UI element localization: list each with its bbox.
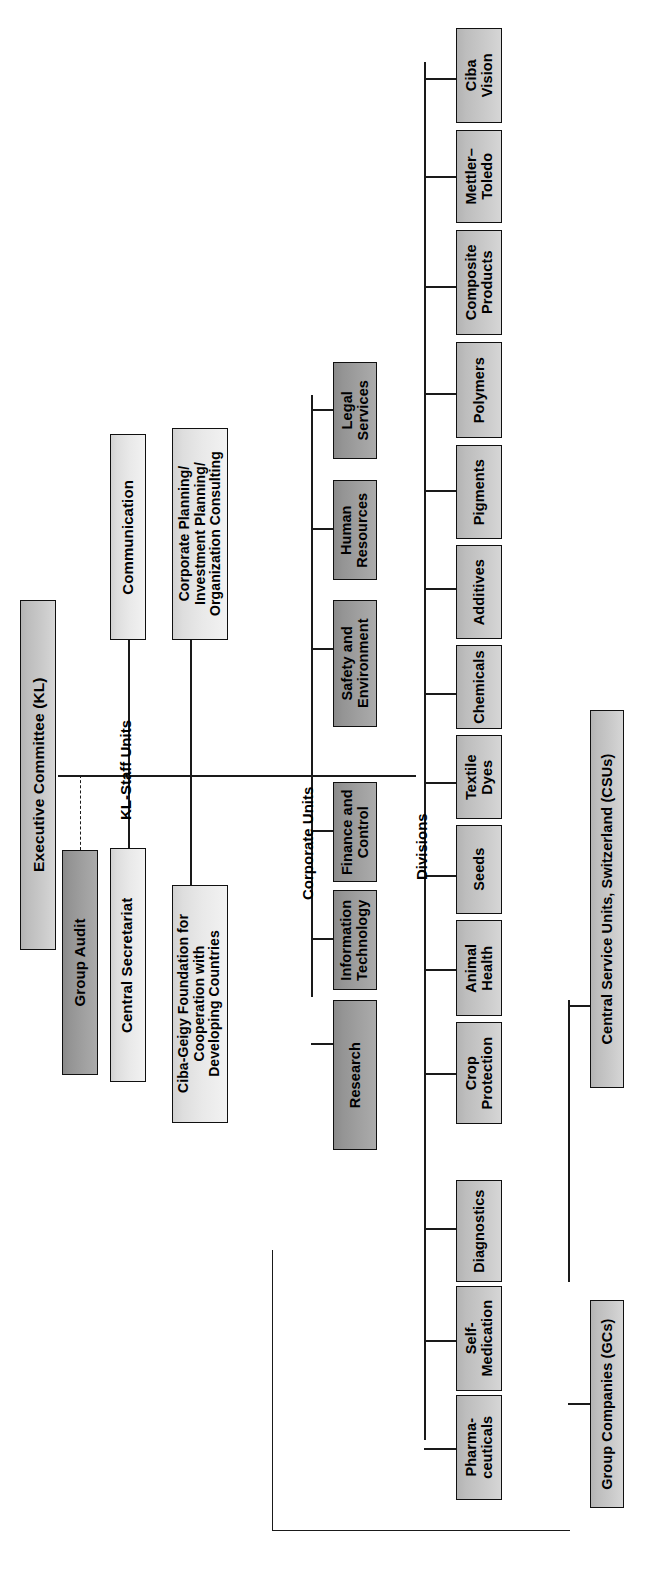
bottom-branch-gcs (568, 1403, 590, 1405)
group-audit-label: Group Audit (72, 918, 89, 1006)
bottom-unit-label: Group Companies (GCs) (599, 1318, 615, 1489)
corporate-unit-legal-services[interactable]: Legal Services (333, 362, 377, 459)
kl-staff-units-caption: KL-Staff Units (118, 720, 135, 820)
division-label: Crop Protection (463, 1037, 495, 1110)
div-branch-textile (424, 782, 456, 784)
div-branch-pigments (424, 490, 456, 492)
division-seeds[interactable]: Seeds (456, 825, 502, 914)
division-self-medication[interactable]: Self- Medication (456, 1286, 502, 1391)
bottom-unit-label: Central Service Units, Switzerland (CSUs… (599, 754, 615, 1045)
div-branch-additives (424, 588, 456, 590)
bottom-branch-csus (568, 1005, 590, 1007)
corporate-unit-research[interactable]: Research (333, 1000, 377, 1150)
divisions-spine (424, 62, 426, 776)
div-branch-mettler (424, 176, 456, 178)
executive-committee-box[interactable]: Executive Committee (KL) (20, 600, 56, 950)
division-label: Mettler– Toledo (463, 148, 495, 204)
kl-staff-item-label: Ciba-Geigy Foundation for Cooperation wi… (177, 914, 224, 1093)
div-branch-crop (424, 1073, 456, 1075)
group-audit-box[interactable]: Group Audit (62, 850, 98, 1075)
cu-branch-it (311, 938, 333, 940)
corporate-unit-information-technology[interactable]: Information Technology (333, 890, 377, 990)
corporate-units-caption: Corporate Units (300, 787, 317, 900)
div-branch-chemicals (424, 693, 456, 695)
division-label: Ciba Vision (463, 54, 495, 98)
division-additives[interactable]: Additives (456, 545, 502, 639)
org-chart-canvas: Executive Committee (KL) Group Audit KL-… (0, 0, 653, 1588)
division-chemicals[interactable]: Chemicals (456, 645, 502, 729)
division-label: Self- Medication (463, 1300, 495, 1377)
trunk-main (58, 775, 416, 777)
div-branch-polymers (424, 393, 456, 395)
kl-staff-item-corporate-planning[interactable]: Corporate Planning/ Investment Planning/… (172, 428, 228, 640)
kl-staff-item-foundation[interactable]: Ciba-Geigy Foundation for Cooperation wi… (172, 885, 228, 1123)
div-branch-ciba-vision (424, 78, 456, 80)
bottom-unit-group-companies[interactable]: Group Companies (GCs) (590, 1300, 624, 1508)
division-crop-protection[interactable]: Crop Protection (456, 1022, 502, 1124)
kl-staff-spine2-lower (190, 775, 192, 885)
group-audit-dashed-link (80, 775, 81, 850)
kl-staff-item-label: Central Secretariat (120, 897, 137, 1032)
kl-staff-item-communication[interactable]: Communication (110, 434, 146, 640)
division-label: Textile Dyes (463, 754, 495, 800)
corporate-unit-finance-and-control[interactable]: Finance and Control (333, 782, 377, 882)
executive-committee-label: Executive Committee (KL) (29, 678, 46, 872)
corporate-unit-human-resources[interactable]: Human Resources (333, 480, 377, 580)
kl-staff-item-label: Communication (120, 480, 137, 595)
bottom-unit-central-service-units[interactable]: Central Service Units, Switzerland (CSUs… (590, 710, 624, 1088)
corporate-unit-label: Legal Services (339, 380, 371, 440)
cu-branch-legal (311, 409, 333, 411)
kl-staff-item-central-secretariat[interactable]: Central Secretariat (110, 848, 146, 1082)
corporate-unit-label: Information Technology (339, 899, 371, 980)
division-label: Animal Health (463, 944, 495, 993)
division-pigments[interactable]: Pigments (456, 445, 502, 539)
division-label: Pigments (471, 459, 487, 525)
corporate-units-spine (311, 395, 313, 776)
corporate-unit-label: Finance and Control (339, 789, 371, 875)
division-animal-health[interactable]: Animal Health (456, 920, 502, 1016)
division-textile-dyes[interactable]: Textile Dyes (456, 735, 502, 819)
corporate-unit-label: Research (347, 1042, 363, 1108)
cu-branch-hr (311, 528, 333, 530)
kl-staff-spine2 (190, 640, 192, 776)
divisions-caption: Divisions (414, 813, 431, 880)
corporate-unit-safety-and-environment[interactable]: Safety and Environment (333, 600, 377, 727)
division-diagnostics[interactable]: Diagnostics (456, 1180, 502, 1282)
cu-branch-safety (311, 648, 333, 650)
division-polymers[interactable]: Polymers (456, 342, 502, 438)
kl-staff-item-label: Corporate Planning/ Investment Planning/… (177, 452, 224, 617)
division-label: Additives (471, 559, 487, 625)
division-label: Chemicals (471, 650, 487, 723)
division-label: Polymers (471, 357, 487, 423)
bottom-units-spine (568, 1000, 570, 1282)
corporate-unit-label: Safety and Environment (339, 619, 371, 709)
division-label: Composite Products (463, 245, 495, 321)
division-label: Pharma- ceuticals (463, 1416, 495, 1479)
division-pharmaceuticals[interactable]: Pharma- ceuticals (456, 1395, 502, 1500)
corporate-unit-label: Human Resources (339, 492, 371, 567)
division-ciba-vision[interactable]: Ciba Vision (456, 28, 502, 123)
division-mettler-toledo[interactable]: Mettler– Toledo (456, 130, 502, 223)
div-branch-animal (424, 969, 456, 971)
bottom-units-wrap-frame (272, 1250, 570, 1531)
division-label: Diagnostics (471, 1189, 487, 1272)
division-label: Seeds (471, 848, 487, 891)
cu-branch-research (311, 1043, 333, 1045)
div-branch-diagnostics (424, 1228, 456, 1230)
div-branch-composite (424, 286, 456, 288)
division-composite-products[interactable]: Composite Products (456, 230, 502, 335)
